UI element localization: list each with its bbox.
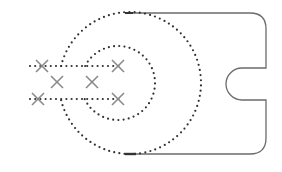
background xyxy=(0,0,282,172)
diagram-canvas xyxy=(0,0,282,172)
